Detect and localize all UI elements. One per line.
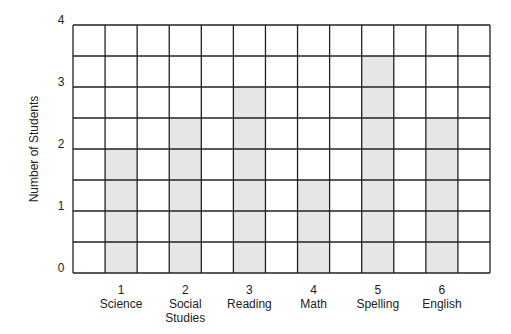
y-tick-labels: 01234: [58, 13, 65, 275]
y-tick-label: 4: [58, 13, 65, 27]
x-category-labels: 1Science2SocialStudies3Reading4Math5Spel…: [100, 283, 462, 325]
y-tick-label: 2: [58, 137, 65, 151]
bar-chart: 01234 1Science2SocialStudies3Reading4Mat…: [0, 0, 511, 334]
x-category-number: 4: [310, 283, 317, 297]
x-category-number: 1: [118, 283, 125, 297]
x-category-number: 2: [182, 283, 189, 297]
y-tick-label: 0: [58, 261, 65, 275]
x-category-label: Studies: [165, 311, 205, 325]
x-category-label: Social: [169, 297, 202, 311]
x-category-label: Math: [300, 297, 327, 311]
x-category-label: Science: [100, 297, 143, 311]
x-category-label: Reading: [227, 297, 272, 311]
x-category-number: 5: [374, 283, 381, 297]
x-category-label: Spelling: [356, 297, 399, 311]
y-tick-label: 3: [58, 75, 65, 89]
x-category-number: 6: [439, 283, 446, 297]
bar-2: [169, 118, 201, 273]
y-axis-label: Number of Students: [27, 96, 41, 203]
y-tick-label: 1: [58, 199, 65, 213]
bar-6: [426, 118, 458, 273]
x-category-label: English: [422, 297, 461, 311]
bar-5: [362, 56, 394, 273]
bars-group: [105, 56, 458, 273]
x-category-number: 3: [246, 283, 253, 297]
bar-4: [298, 180, 330, 273]
